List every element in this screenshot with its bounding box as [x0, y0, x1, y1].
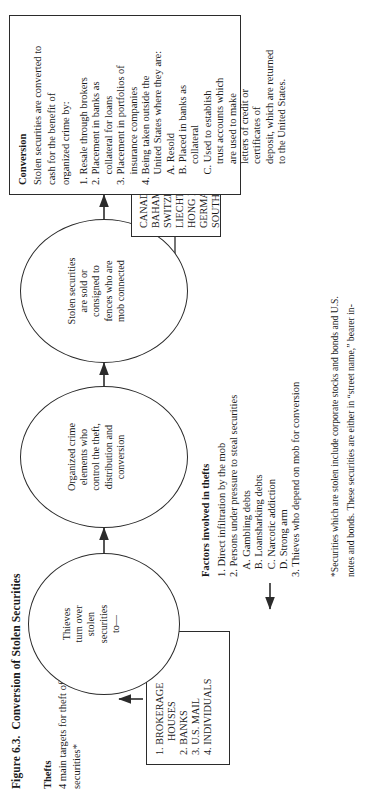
conversion-list-line: insurance companies [128, 50, 140, 185]
figure-title: Figure 6.3. Conversion of Stolen Securit… [10, 573, 24, 789]
thefts-target-item: 3. U.S. MAIL [190, 632, 202, 755]
conversion-list-line: certificates of [251, 50, 263, 185]
thefts-target-number: 3. [190, 747, 201, 755]
thefts-target-number: 2. [178, 747, 189, 755]
thefts-target-number: 1. [154, 747, 165, 755]
thefts-target-label: INDIVIDUALS [202, 679, 213, 748]
factors-heading: Factors involved in thefts [200, 464, 212, 577]
flow-stage-3-line: mob connected [115, 220, 127, 362]
conversion-list-line: A. Resold [165, 50, 177, 185]
flow-stage-1-thieves: Thievesturn overstolensecuritiesto— [28, 553, 180, 695]
flow-stage-3-line: Stolen securities [66, 220, 78, 362]
conversion-heading: Conversion [17, 134, 29, 185]
flow-stage-2-line: distribution and [103, 387, 115, 527]
conversion-list-line: to the United States. [276, 50, 288, 185]
conversion-list-line: deposit, which are returned [264, 50, 276, 185]
rotated-figure-canvas: Figure 6.3. Conversion of Stolen Securit… [0, 0, 373, 805]
footnote-line1: *Securities which are stolen include cor… [329, 296, 340, 577]
conversion-list-line: are used to make [227, 50, 239, 185]
thefts-target-label: BANKS [178, 710, 189, 747]
factors-list-line: A. Gambling debts [241, 382, 253, 577]
flow-stage-2-organized-crime: Organized crimeelements whocontrol the t… [20, 386, 188, 528]
conversion-list-line: 2. Placement in banks as [90, 50, 102, 185]
flow-stage-3-line: are sold or [78, 220, 90, 362]
flow-stage-2-line: Organized crime [66, 387, 78, 527]
flow-stage-2-line: conversion [115, 387, 127, 527]
thefts-subtitle-line1: 4 main targets for theft of [57, 682, 69, 789]
flow-stage-1-line: securities [98, 554, 110, 694]
flow-stage-2-line: control the theft, [90, 387, 102, 527]
factors-list-line: 1. Direct infiltration by the mob [216, 382, 228, 577]
conversion-method-list: 1. Resale through brokers2. Placement in… [78, 50, 288, 185]
conversion-box: Conversion Stolen securities are convert… [9, 15, 241, 195]
conversion-list-line: 4. Being taken outside the [140, 50, 152, 185]
conversion-list-line: trust accounts which [214, 50, 226, 185]
flow-stage-3-text: Stolen securitiesare sold orconsigned to… [66, 220, 127, 362]
thefts-heading: Thefts [42, 760, 54, 789]
flow-stage-1-line: stolen [85, 554, 97, 694]
conversion-intro-line3: organized crime by: [60, 101, 72, 185]
figure-conversion-of-stolen-securities: Figure 6.3. Conversion of Stolen Securit… [0, 0, 373, 805]
flow-stage-1-line: Thieves [61, 554, 73, 694]
thefts-target-item: 4. INDIVIDUALS [202, 632, 214, 755]
conversion-list-line: collateral for loans [103, 50, 115, 185]
factors-list: 1. Direct infiltration by the mob2. Pers… [216, 382, 303, 577]
factors-list-line: 3. Thieves who depend on mob for convers… [290, 382, 302, 577]
thefts-target-label: U.S. MAIL [190, 698, 201, 747]
thefts-target-number: 4. [202, 747, 213, 755]
conversion-intro-line2: cash for the benefit of [46, 93, 58, 185]
thefts-target-item: 2. BANKS [178, 632, 190, 755]
flow-stage-3-fences: Stolen securitiesare sold orconsigned to… [20, 219, 188, 363]
flow-stage-1-line: turn over [73, 554, 85, 694]
flow-stage-2-text: Organized crimeelements whocontrol the t… [66, 387, 127, 527]
conversion-list-line: collateral [189, 50, 201, 185]
flow-stage-1-text: Thievesturn overstolensecuritiesto— [61, 554, 122, 694]
flow-stage-2-line: elements who [78, 387, 90, 527]
conversion-intro-line1: Stolen securities are converted to [32, 46, 44, 185]
flow-stage-3-line: fences who are [103, 220, 115, 362]
conversion-list-line: United States where they are: [152, 50, 164, 185]
flow-stage-3-line: consigned to [90, 220, 102, 362]
conversion-list-line: letters of credit or [239, 50, 251, 185]
factors-list-line: D. Strong arm [278, 382, 290, 577]
flow-stage-1-line: to— [110, 554, 122, 694]
factors-list-line: 2. Persons under pressure to steal secur… [228, 382, 240, 577]
conversion-list-line: 3. Placement in portfolios of [115, 50, 127, 185]
figure-title-text: Conversion of Stolen Securities [10, 573, 22, 729]
footnote-line2: notes and bonds. These securities are ei… [345, 304, 356, 577]
conversion-list-line: C. Used to establish [202, 50, 214, 185]
thefts-subtitle-line2: securities* [71, 744, 83, 789]
conversion-list-line: B. Placed in banks as [177, 50, 189, 185]
factors-list-line: B. Loansharking debts [253, 382, 265, 577]
conversion-list-line: 1. Resale through brokers [78, 50, 90, 185]
thefts-target-label: BROKERAGE [154, 683, 165, 748]
figure-title-spacer [10, 729, 22, 735]
factors-list-line: C. Narcotic addiction [266, 382, 278, 577]
figure-number: Figure 6.3. [10, 735, 22, 789]
